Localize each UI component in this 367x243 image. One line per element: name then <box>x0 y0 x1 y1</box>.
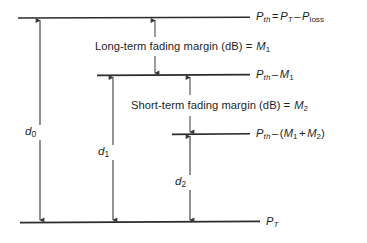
level-label-p-th-minus-m1-plus-m2: Pth–(M1+M2) <box>256 128 325 141</box>
symbol-p-th: P <box>256 10 264 22</box>
equals-sign: = <box>270 10 280 22</box>
symbol-p-t-bottom: P <box>266 215 274 227</box>
level-line-p-th-minus-m1 <box>97 75 250 76</box>
symbol-m1-b-sub: 1 <box>293 132 297 141</box>
symbol-p-th-3: P <box>256 127 264 139</box>
level-line-p-th-minus-m1-plus-m2 <box>172 134 250 135</box>
symbol-m2-margin-sub: 2 <box>304 104 308 113</box>
symbol-m1-b: M <box>284 127 293 139</box>
margin-label-short-term: Short-term fading margin (dB) =M2 <box>131 100 308 113</box>
symbol-p-t-sub: T <box>288 15 293 24</box>
symbol-m1-margin-sub: 1 <box>266 45 270 54</box>
level-line-p-th <box>18 17 250 18</box>
symbol-p-loss: P <box>302 10 310 22</box>
margin-label-short-term-text: Short-term fading margin (dB) = <box>131 99 290 111</box>
symbol-m2-b: M <box>307 127 316 139</box>
symbol-d2-sub: 2 <box>181 179 186 189</box>
symbol-m1: M <box>280 68 289 80</box>
minus-sign-2: – <box>270 68 279 80</box>
distance-label-d2: d2 <box>175 175 186 189</box>
level-label-p-th-minus-m1: Pth–M1 <box>256 69 294 82</box>
minus-sign-3: – <box>270 127 279 139</box>
symbol-m1-margin: M <box>252 40 265 52</box>
distance-label-d0: d0 <box>25 125 36 139</box>
level-label-p-t: PT <box>266 216 279 229</box>
minus-sign: – <box>293 10 302 22</box>
symbol-p-loss-sub: loss <box>310 15 324 24</box>
fading-margin-diagram: Pth=PT–Ploss Pth–M1 Pth–(M1+M2) PT Long-… <box>0 0 367 243</box>
level-line-p-t <box>20 221 260 222</box>
symbol-p-th-2: P <box>256 68 264 80</box>
symbol-m1-sub: 1 <box>289 73 293 82</box>
plus-sign: + <box>298 127 308 139</box>
margin-label-long-term: Long-term fading margin (dB) =M1 <box>95 41 270 54</box>
margin-label-long-term-text: Long-term fading margin (dB) = <box>95 40 252 52</box>
symbol-d1-sub: 1 <box>104 149 109 159</box>
symbol-d0-sub: 0 <box>31 129 36 139</box>
symbol-m2-margin: M <box>290 99 303 111</box>
diagram-canvas <box>0 0 367 243</box>
distance-label-d1: d1 <box>98 145 109 159</box>
close-paren: ) <box>321 127 325 139</box>
level-label-p-th: Pth=PT–Ploss <box>256 11 324 24</box>
symbol-p-t: P <box>280 10 288 22</box>
symbol-p-t-bottom-sub: T <box>274 220 279 229</box>
